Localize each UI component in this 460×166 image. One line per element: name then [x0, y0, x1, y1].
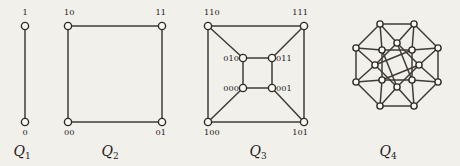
vertex-label: 000	[223, 83, 239, 93]
caption-subscript: 3	[261, 151, 267, 161]
caption-base: Q	[249, 143, 261, 159]
caption-base: Q	[379, 143, 391, 159]
vertex-q4-inner-w	[372, 62, 378, 68]
vertex-q1-1	[21, 22, 28, 29]
vertex-q4-mid-sw	[379, 77, 385, 83]
vertex-label: 10	[64, 7, 74, 17]
vertex-label: 00	[64, 127, 74, 137]
vertex-label: 1	[22, 7, 27, 17]
caption-base: Q	[101, 143, 113, 159]
vertex-q4-outer-e-up	[435, 45, 441, 51]
vertex-label: 101	[292, 127, 308, 137]
vertex-label: 0	[22, 127, 27, 137]
vertex-q4-outer-w-up	[353, 45, 359, 51]
vertex-q3-100	[204, 118, 211, 125]
caption-base: Q	[13, 143, 25, 159]
figure-canvas: 10Q110110001Q2110111100101010011000001Q3…	[0, 0, 460, 166]
vertex-q1-0	[21, 118, 28, 125]
vertex-label: 100	[204, 127, 220, 137]
vertex-q3-111	[300, 22, 307, 29]
vertex-q4-outer-se	[411, 103, 417, 109]
vertex-q3-000	[239, 84, 246, 91]
vertex-q4-outer-e-dn	[435, 79, 441, 85]
vertex-q3-110	[204, 22, 211, 29]
vertex-q2-01	[158, 118, 165, 125]
vertex-label: 011	[276, 53, 292, 63]
vertex-q4-outer-ne	[411, 21, 417, 27]
vertex-q4-inner-n	[394, 40, 400, 46]
vertex-q3-001	[268, 84, 275, 91]
vertex-q4-outer-s	[377, 103, 383, 109]
vertex-q2-00	[64, 118, 71, 125]
vertex-q4-inner-e	[416, 62, 422, 68]
vertex-label: 11	[156, 7, 166, 17]
vertex-q4-outer-w-dn	[353, 79, 359, 85]
vertex-label: 110	[204, 7, 220, 17]
hypercube-figure: 10Q110110001Q2110111100101010011000001Q3…	[0, 0, 460, 166]
vertex-q3-010	[239, 54, 246, 61]
vertex-q4-mid-ne	[409, 47, 415, 53]
vertex-q4-inner-s	[394, 84, 400, 90]
vertex-label: 111	[292, 7, 308, 17]
caption-subscript: 4	[391, 151, 397, 161]
caption-subscript: 2	[113, 151, 119, 161]
vertex-label: 01	[156, 127, 166, 137]
vertex-label: 001	[276, 83, 292, 93]
vertex-label: 010	[223, 53, 239, 63]
caption-subscript: 1	[25, 151, 31, 161]
vertex-q4-mid-se	[409, 77, 415, 83]
vertex-q4-mid-nw	[379, 47, 385, 53]
vertex-q4-outer-n	[377, 21, 383, 27]
vertex-q2-10	[64, 22, 71, 29]
vertex-q3-011	[268, 54, 275, 61]
vertex-q3-101	[300, 118, 307, 125]
vertex-q2-11	[158, 22, 165, 29]
